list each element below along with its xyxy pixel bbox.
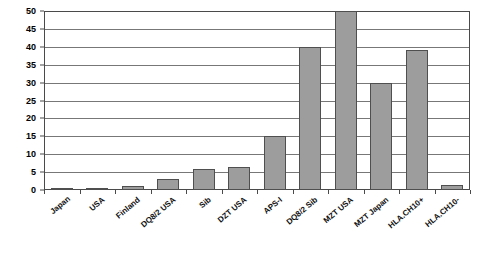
bar-slot xyxy=(44,11,80,190)
bar-slot xyxy=(293,11,329,190)
x-axis-tick-label: Japan xyxy=(49,195,72,216)
x-axis-tick xyxy=(470,190,471,194)
x-axis-tick xyxy=(44,190,45,194)
x-axis-labels: JapanUSAFinlandDQ8/2 USASibDZT USAAPS-ID… xyxy=(44,196,470,256)
bar xyxy=(406,50,428,190)
y-axis-tick-label: 10 xyxy=(26,150,36,159)
bar xyxy=(157,179,179,190)
y-axis-tick-label: 50 xyxy=(26,7,36,16)
bar-slot xyxy=(115,11,151,190)
y-axis-tick-label: 35 xyxy=(26,60,36,69)
x-axis-tick-label: MZT Japan xyxy=(353,196,390,229)
bar-slot xyxy=(328,11,364,190)
bars-layer xyxy=(44,11,470,190)
x-axis-tick-label: USA xyxy=(88,196,106,213)
x-axis-tick-label: DZT USA xyxy=(217,196,249,224)
y-axis-tick-label: 20 xyxy=(26,114,36,123)
x-axis-tick-label: MZT USA xyxy=(323,196,355,225)
x-axis-tick xyxy=(293,190,294,194)
x-axis-tick xyxy=(115,190,116,194)
x-axis-tick-label: Finland xyxy=(115,196,142,220)
x-axis-tick xyxy=(80,190,81,194)
x-axis-tick-label: DQ8/2 Sib xyxy=(285,196,319,226)
bar-slot xyxy=(80,11,116,190)
x-axis-tick xyxy=(364,190,365,194)
x-axis-tick-label: DQ8/2 USA xyxy=(140,196,177,229)
bar xyxy=(335,11,357,190)
x-axis-ticks xyxy=(44,190,470,195)
x-axis-tick-label: APS-I xyxy=(262,196,283,216)
bar xyxy=(264,136,286,190)
bar-chart: 05101520253035404550 JapanUSAFinlandDQ8/… xyxy=(0,0,483,256)
bar-slot xyxy=(435,11,471,190)
y-axis: 05101520253035404550 xyxy=(0,0,44,200)
bar-slot xyxy=(257,11,293,190)
bar-slot xyxy=(222,11,258,190)
bar-slot xyxy=(151,11,187,190)
y-axis-tick-label: 15 xyxy=(26,132,36,141)
y-axis-tick-label: 45 xyxy=(26,24,36,33)
bar xyxy=(228,167,250,190)
bar-slot xyxy=(186,11,222,190)
x-axis-tick xyxy=(328,190,329,194)
y-axis-tick-label: 5 xyxy=(31,168,36,177)
y-axis-tick-label: 30 xyxy=(26,78,36,87)
x-axis-tick-label: Sib xyxy=(198,196,213,210)
x-axis-tick xyxy=(435,190,436,194)
x-axis-tick xyxy=(222,190,223,194)
x-axis-tick xyxy=(257,190,258,194)
bar-slot xyxy=(399,11,435,190)
x-axis-tick xyxy=(186,190,187,194)
x-axis-tick xyxy=(151,190,152,194)
x-axis-tick-label: HLA.CH10- xyxy=(424,196,461,229)
bar-slot xyxy=(364,11,400,190)
bar xyxy=(299,47,321,190)
bar xyxy=(193,169,215,190)
x-axis-tick xyxy=(399,190,400,194)
y-axis-tick-label: 0 xyxy=(31,186,36,195)
x-axis-label-wrapper: Japan xyxy=(49,196,71,216)
y-axis-tick-label: 25 xyxy=(26,96,36,105)
y-axis-tick-label: 40 xyxy=(26,42,36,51)
bar xyxy=(370,83,392,190)
